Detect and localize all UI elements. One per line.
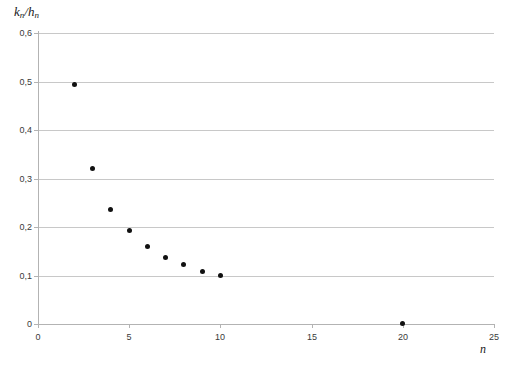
gridline: [38, 179, 494, 180]
y-axis-tick-mark: [34, 179, 38, 180]
x-axis-tick-label: 20: [383, 332, 423, 342]
y-axis-title: kn/hn: [14, 4, 39, 20]
x-axis-title: n: [480, 342, 486, 357]
x-axis-tick-label: 25: [474, 332, 514, 342]
y-axis-tick-mark: [34, 227, 38, 228]
data-point: [108, 207, 113, 212]
y-axis-title-numerator-sub: n: [20, 10, 25, 20]
x-axis-tick-mark: [220, 324, 221, 328]
y-axis-tick-label: 0,6: [2, 28, 32, 38]
y-axis-tick-label: 0,1: [2, 271, 32, 281]
gridline: [38, 82, 494, 83]
x-axis-tick-label: 15: [292, 332, 332, 342]
y-axis-tick-label: 0,3: [2, 174, 32, 184]
x-axis-tick-mark: [129, 324, 130, 328]
x-axis-tick-label: 0: [18, 332, 58, 342]
gridline: [38, 130, 494, 131]
y-axis-tick-label: 0,5: [2, 77, 32, 87]
data-point: [218, 273, 223, 278]
y-axis-line: [38, 31, 39, 325]
y-axis-tick-mark: [34, 82, 38, 83]
y-axis-title-numerator: k: [14, 4, 20, 19]
y-axis-tick-mark: [34, 33, 38, 34]
data-point: [400, 321, 405, 326]
chart-screenshot: kn/hn n 00,10,20,30,40,50,6 0510152025: [0, 0, 518, 365]
data-point: [90, 166, 95, 171]
data-point: [72, 82, 77, 87]
x-axis-tick-label: 5: [109, 332, 149, 342]
x-axis-title-label: n: [480, 342, 486, 356]
y-axis-tick-label: 0,2: [2, 222, 32, 232]
data-point: [163, 255, 168, 260]
data-point: [145, 244, 150, 249]
y-axis-tick-mark: [34, 130, 38, 131]
y-axis-tick-label: 0,4: [2, 125, 32, 135]
data-point: [200, 269, 205, 274]
x-axis-tick-mark: [38, 324, 39, 328]
gridline: [38, 276, 494, 277]
y-axis-title-denominator-sub: n: [34, 10, 39, 20]
data-point: [181, 262, 186, 267]
x-axis-tick-mark: [312, 324, 313, 328]
x-axis-tick-mark: [494, 324, 495, 328]
x-axis-line: [38, 324, 495, 325]
x-axis-tick-label: 10: [200, 332, 240, 342]
scatter-chart: kn/hn n 00,10,20,30,40,50,6 0510152025: [0, 0, 518, 365]
y-axis-tick-mark: [34, 276, 38, 277]
data-point: [127, 228, 132, 233]
y-axis-tick-label: 0: [2, 319, 32, 329]
gridline: [38, 33, 494, 34]
gridline: [38, 227, 494, 228]
